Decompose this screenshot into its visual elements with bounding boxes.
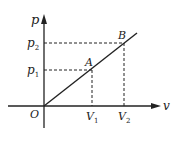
p1-label: p1	[27, 63, 39, 79]
v2-label: V2	[118, 110, 130, 125]
p2-label: p2	[27, 36, 39, 52]
p-axis-label: p	[31, 12, 40, 27]
point-a-label: A	[84, 56, 93, 69]
p-axis-arrow-icon	[41, 14, 47, 24]
v-axis-arrow-icon	[151, 103, 161, 109]
v-axis-label: v	[163, 99, 170, 113]
pv-diagram: p v O p2 p1 A B V1 V2	[0, 0, 176, 143]
process-line	[44, 33, 137, 106]
origin-label: O	[30, 108, 39, 121]
v1-label: V1	[86, 110, 98, 125]
point-b-label: B	[117, 29, 126, 42]
